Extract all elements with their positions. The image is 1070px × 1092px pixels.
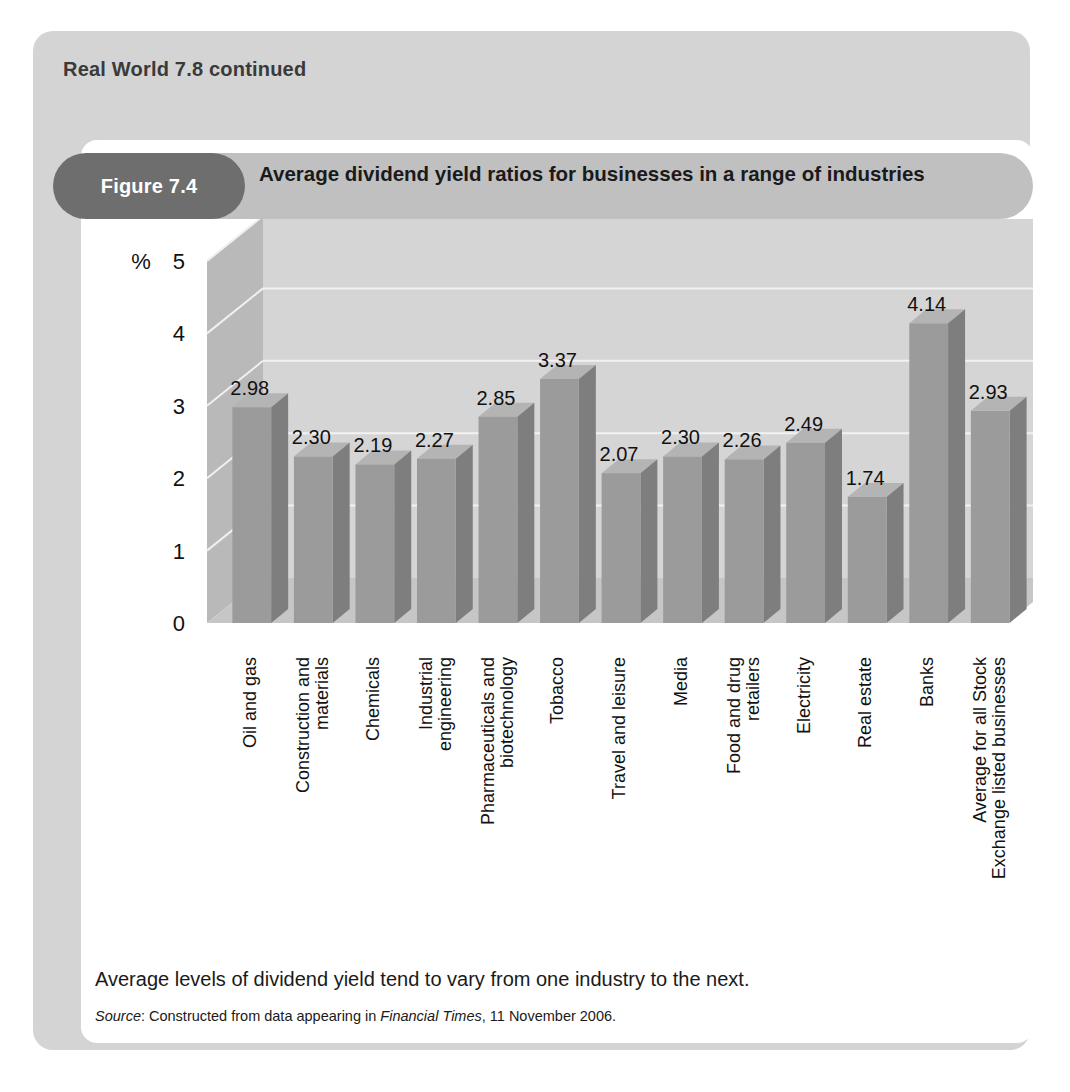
x-axis-category-label: Tobacco <box>547 657 567 724</box>
y-axis-tick-label: 4 <box>173 321 185 346</box>
bar-value-label: 3.37 <box>538 349 577 371</box>
bar-value-label: 2.49 <box>784 413 823 435</box>
y-axis-tick-label: 2 <box>173 466 185 491</box>
real-world-box: Real World 7.8 continued Figure 7.4 Aver… <box>33 31 1030 1050</box>
figure-source: Source: Constructed from data appearing … <box>95 1008 1015 1024</box>
x-axis-category-label: engineering <box>435 657 455 751</box>
bar-front-face <box>479 417 518 623</box>
bar-side-face <box>887 483 904 623</box>
bar-side-face <box>456 445 473 623</box>
chart-container: %0123452.982.302.192.272.853.372.072.302… <box>81 219 1033 979</box>
x-axis-category-label: Real estate <box>855 657 875 748</box>
bar-group <box>786 429 842 623</box>
source-prefix: Source <box>95 1008 141 1024</box>
bar-side-face <box>702 442 719 623</box>
figure-title: Average dividend yield ratios for busine… <box>259 161 989 186</box>
figure-card: Figure 7.4 Average dividend yield ratios… <box>81 140 1033 1043</box>
x-axis-category-label: Travel and leisure <box>609 657 629 799</box>
bar-front-face <box>725 459 764 623</box>
bar-side-face <box>1010 397 1027 623</box>
bar-front-face <box>355 464 394 623</box>
bar-value-label: 2.93 <box>969 381 1008 403</box>
bar-side-face <box>517 403 534 623</box>
x-axis-category-label: Pharmaceuticals and <box>478 657 498 825</box>
x-axis-category-label: Banks <box>917 657 937 707</box>
bar-value-label: 2.26 <box>723 429 762 451</box>
x-axis-category-label: Electricity <box>794 657 814 734</box>
source-suffix: , 11 November 2006. <box>482 1008 616 1024</box>
x-axis-category-label: Exchange listed businesses <box>989 657 1009 879</box>
bar-group <box>417 445 473 623</box>
bar-group <box>479 403 535 623</box>
x-axis-category-label: Media <box>671 656 691 706</box>
figure-number-label: Figure 7.4 <box>101 175 197 198</box>
bar-front-face <box>786 443 825 623</box>
bar-front-face <box>417 459 456 623</box>
bar-side-face <box>825 429 842 623</box>
bar-value-label: 2.07 <box>600 443 639 465</box>
bar-value-label: 2.27 <box>415 429 454 451</box>
bar-side-face <box>948 309 965 623</box>
bar-group <box>294 442 350 623</box>
bar-group <box>355 450 411 623</box>
bar-front-face <box>971 411 1010 623</box>
bar-group <box>663 442 719 623</box>
source-mid: : Constructed from data appearing in <box>141 1008 380 1024</box>
bar-front-face <box>294 456 333 623</box>
figure-header-bar: Figure 7.4 Average dividend yield ratios… <box>81 153 1033 219</box>
bar-group <box>848 483 904 623</box>
bar-group <box>971 397 1027 623</box>
bar-side-face <box>579 365 596 623</box>
bar-front-face <box>540 379 579 623</box>
x-axis-category-label: Average for all Stock <box>970 656 990 823</box>
bar-value-label: 2.85 <box>476 387 515 409</box>
y-axis-tick-label: 1 <box>173 539 185 564</box>
figure-number-pill: Figure 7.4 <box>53 153 245 219</box>
bar-side-face <box>333 442 350 623</box>
bar-front-face <box>909 323 948 623</box>
figure-caption: Average levels of dividend yield tend to… <box>95 968 1015 991</box>
bar-value-label: 2.30 <box>661 426 700 448</box>
bar-value-label: 2.30 <box>292 426 331 448</box>
y-axis-tick-label: 5 <box>173 249 185 274</box>
bar-side-face <box>271 393 288 623</box>
bar-group <box>540 365 596 623</box>
source-publication: Financial Times <box>380 1008 481 1024</box>
x-axis-category-label: Industrial <box>416 657 436 730</box>
bar-front-face <box>232 407 271 623</box>
bar-side-face <box>763 445 780 623</box>
bar-front-face <box>663 456 702 623</box>
x-axis-category-label: materials <box>312 657 332 730</box>
bar-front-face <box>602 473 641 623</box>
bar-side-face <box>394 450 411 623</box>
bar-value-label: 1.74 <box>846 467 885 489</box>
bar-group <box>232 393 288 623</box>
dividend-yield-3d-bar-chart: %0123452.982.302.192.272.853.372.072.302… <box>81 219 1033 979</box>
y-axis-tick-label: 3 <box>173 394 185 419</box>
bar-value-label: 2.98 <box>230 377 269 399</box>
x-axis-category-label: Food and drug <box>724 657 744 774</box>
x-axis-category-label: Oil and gas <box>240 657 260 748</box>
x-axis-category-label: Construction and <box>293 657 313 793</box>
bar-group <box>602 459 658 623</box>
bar-front-face <box>848 497 887 623</box>
bar-value-label: 2.19 <box>353 434 392 456</box>
bar-group <box>909 309 965 623</box>
y-axis-tick-label: 0 <box>173 611 185 636</box>
y-axis-unit-label: % <box>131 249 151 274</box>
bar-group <box>725 445 781 623</box>
x-axis-category-label: Chemicals <box>363 657 383 741</box>
x-axis-category-label: retailers <box>743 657 763 721</box>
bar-side-face <box>640 459 657 623</box>
box-heading: Real World 7.8 continued <box>63 58 306 81</box>
x-axis-category-label: biotechnology <box>497 657 517 768</box>
bar-value-label: 4.14 <box>907 293 946 315</box>
